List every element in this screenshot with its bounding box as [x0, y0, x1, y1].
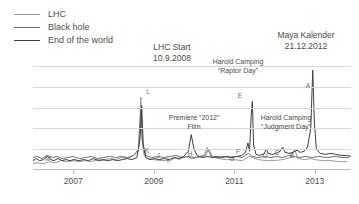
- legend-swatch-lhc: [14, 14, 40, 15]
- point-label-M: M: [45, 155, 50, 162]
- legend-item-end-of-the-world[interactable]: End of the world: [14, 34, 113, 47]
- callout-premiere-2012: Premiere “2012”Film: [169, 113, 220, 131]
- x-tick-mark-2013: [315, 170, 316, 174]
- legend-item-lhc[interactable]: LHC: [14, 8, 113, 21]
- point-label-K: K: [145, 147, 149, 154]
- x-tick-mark-2007: [73, 170, 74, 174]
- x-tick-mark-2009: [154, 170, 155, 174]
- callout-lhc-start: LHC Start10.9.2008: [153, 42, 191, 64]
- x-tick-label-2007: 2007: [64, 176, 83, 186]
- legend-label-black-hole: Black hole: [48, 21, 90, 34]
- point-label-H: H: [188, 150, 193, 157]
- callout-harold-judgment: Harold Camping“Judgment Day”: [261, 113, 312, 131]
- point-label-G: G: [229, 155, 234, 162]
- legend-swatch-end-of-the-world: [14, 40, 40, 41]
- point-label-I: I: [167, 157, 169, 164]
- point-label-C: C: [275, 149, 280, 156]
- callout-maya-kalender-line1: Maya Kalender: [277, 30, 334, 41]
- x-axis-line: [33, 169, 351, 170]
- point-label-E: E: [238, 92, 242, 99]
- point-label-F: F: [236, 148, 240, 155]
- x-tick-mark-2011: [234, 170, 235, 174]
- callout-harold-judgment-line1: Harold Camping: [261, 113, 312, 122]
- trends-chart: LHCBlack holeEnd of the world 2007200920…: [0, 0, 359, 204]
- gridline-3: [33, 87, 351, 88]
- callout-harold-raptor: Harold Camping“Raptor Day”: [213, 57, 264, 75]
- callout-harold-raptor-line1: Harold Camping: [213, 57, 264, 66]
- point-label-A: A: [306, 82, 310, 89]
- point-label-L: L: [146, 88, 150, 95]
- legend-item-black-hole[interactable]: Black hole: [14, 21, 113, 34]
- gridline-4: [33, 66, 351, 67]
- legend-label-lhc: LHC: [48, 8, 66, 21]
- legend-label-end-of-the-world: End of the world: [48, 34, 113, 47]
- x-tick-label-2009: 2009: [144, 176, 163, 186]
- x-tick-label-2011: 2011: [225, 176, 243, 186]
- callout-lhc-start-line2: 10.9.2008: [153, 53, 191, 64]
- callout-maya-kalender: Maya Kalender21.12.2012: [277, 30, 334, 52]
- point-label-B: B: [290, 152, 294, 159]
- point-label-J: J: [156, 152, 159, 159]
- callout-maya-kalender-line2: 21.12.2012: [277, 41, 334, 52]
- callout-premiere-2012-line2: Film: [169, 122, 220, 131]
- x-tick-label-2013: 2013: [305, 176, 324, 186]
- chart-legend: LHCBlack holeEnd of the world: [14, 8, 113, 47]
- callout-lhc-start-line1: LHC Start: [153, 42, 191, 53]
- legend-swatch-black-hole: [14, 27, 40, 28]
- callout-harold-judgment-line2: “Judgment Day”: [261, 122, 312, 131]
- callout-harold-raptor-line2: “Raptor Day”: [213, 66, 264, 75]
- gridline-2: [33, 108, 351, 109]
- callout-premiere-2012-line1: Premiere “2012”: [169, 113, 220, 122]
- point-label-D: D: [263, 152, 268, 159]
